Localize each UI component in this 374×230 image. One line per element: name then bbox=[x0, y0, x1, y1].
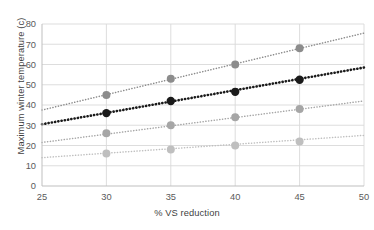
y-tick-label: 20 bbox=[26, 141, 36, 151]
y-tick-label: 10 bbox=[26, 161, 36, 171]
x-tick-label: 40 bbox=[230, 192, 240, 202]
chart-container: Maximum winter temperature (c) % VS redu… bbox=[0, 0, 374, 230]
y-tick-label: 80 bbox=[26, 19, 36, 29]
data-point bbox=[167, 121, 175, 129]
data-point bbox=[296, 137, 304, 145]
data-point bbox=[296, 44, 304, 52]
y-tick-label: 70 bbox=[26, 40, 36, 50]
data-point bbox=[102, 129, 110, 137]
data-point bbox=[102, 109, 110, 117]
trendline-series-3 bbox=[42, 101, 364, 143]
trendline-series-4 bbox=[42, 135, 364, 157]
trendline-series-2 bbox=[42, 68, 364, 125]
y-tick-label: 60 bbox=[26, 60, 36, 70]
data-point bbox=[167, 146, 175, 154]
plot-area: 01020304050607080253035404550 bbox=[0, 0, 374, 230]
x-tick-label: 25 bbox=[37, 192, 47, 202]
x-tick-label: 30 bbox=[101, 192, 111, 202]
series-layer bbox=[42, 33, 364, 158]
gridlines bbox=[42, 24, 364, 186]
y-tick-label: 40 bbox=[26, 100, 36, 110]
x-tick-label: 50 bbox=[359, 192, 369, 202]
data-point bbox=[102, 91, 110, 99]
x-tick-label: 35 bbox=[166, 192, 176, 202]
y-tick-label: 30 bbox=[26, 121, 36, 131]
data-point bbox=[295, 75, 303, 83]
y-tick-label: 50 bbox=[26, 80, 36, 90]
data-point bbox=[231, 142, 239, 150]
data-point bbox=[231, 61, 239, 69]
data-point bbox=[102, 150, 110, 158]
data-point bbox=[296, 105, 304, 113]
y-tick-label: 0 bbox=[31, 181, 36, 191]
data-point bbox=[231, 113, 239, 121]
x-tick-label: 45 bbox=[294, 192, 304, 202]
data-point bbox=[167, 75, 175, 83]
data-point bbox=[167, 97, 175, 105]
tick-labels: 01020304050607080253035404550 bbox=[26, 19, 370, 202]
data-point bbox=[231, 88, 239, 96]
